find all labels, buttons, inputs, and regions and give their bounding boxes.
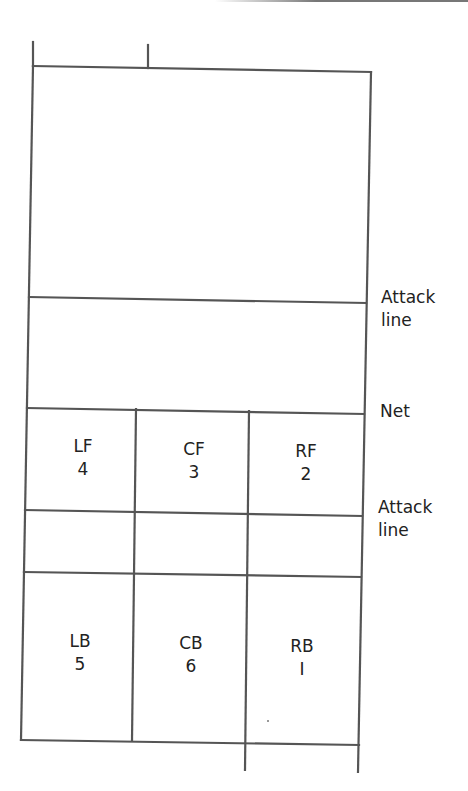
back-zone-line	[24, 572, 361, 577]
attack-line-lower-label: Attack line	[378, 496, 432, 542]
position-number: 5	[50, 653, 110, 676]
position-code: LB	[50, 630, 110, 653]
attack-label-word: Attack	[381, 286, 435, 309]
position-code: CF	[164, 438, 224, 461]
column-divider-left	[132, 409, 136, 741]
position-code: RF	[276, 440, 336, 463]
column-divider-right	[245, 411, 249, 770]
position-rf: RF 2	[276, 440, 336, 486]
line-label-word: line	[381, 309, 435, 332]
position-number: 6	[161, 655, 221, 678]
position-number: 4	[53, 458, 113, 481]
position-code: RB	[272, 635, 332, 658]
position-cb: CB 6	[161, 632, 221, 678]
position-lb: LB 5	[50, 630, 110, 676]
attack-line-upper	[29, 297, 366, 303]
position-code: LF	[53, 435, 113, 458]
position-number: 3	[164, 461, 224, 484]
left-sideline	[21, 66, 33, 740]
right-sideline	[358, 72, 371, 772]
attack-label-word: Attack	[378, 496, 432, 519]
position-number: 2	[276, 463, 336, 486]
end-line-bottom	[21, 740, 359, 745]
net-label: Net	[380, 400, 410, 423]
line-label-word: line	[378, 519, 432, 542]
position-code: CB	[161, 632, 221, 655]
position-rb: RB I	[272, 635, 332, 681]
scan-speck	[267, 720, 269, 722]
net-line	[27, 408, 364, 414]
position-cf: CF 3	[164, 438, 224, 484]
attack-line-upper-label: Attack line	[381, 286, 435, 332]
attack-line-lower	[25, 510, 362, 516]
position-lf: LF 4	[53, 435, 113, 481]
position-number: I	[272, 658, 332, 681]
end-line-top	[33, 66, 371, 72]
